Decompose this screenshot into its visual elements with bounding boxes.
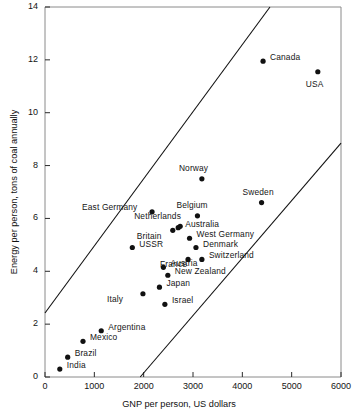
y-axis-tick-label: 0 (0, 371, 38, 381)
data-point[interactable] (260, 59, 265, 64)
data-point[interactable] (80, 339, 85, 344)
data-point-label: Japan (166, 279, 190, 288)
data-point-label: Switzerland (209, 251, 254, 260)
data-point-label: Mexico (90, 333, 117, 342)
y-axis-tick-label: 6 (0, 212, 38, 222)
data-point-label: Canada (270, 53, 300, 62)
data-point-label: Australia (185, 220, 219, 229)
data-point-label: East Germany (82, 203, 137, 212)
data-point-label: Israel (172, 296, 193, 305)
data-point[interactable] (178, 224, 183, 229)
data-point-label: Argentina (108, 323, 145, 332)
data-point[interactable] (195, 213, 200, 218)
data-point-label: West Germany (197, 230, 255, 239)
upper-band-line (45, 7, 270, 313)
y-axis-tick-label: 2 (0, 318, 38, 328)
data-point-label: Norway (179, 164, 208, 173)
data-point-label: USA (306, 80, 324, 89)
data-point[interactable] (315, 69, 320, 74)
data-point-label: Belgium (176, 201, 207, 210)
y-axis-tick-label: 10 (0, 107, 38, 117)
y-axis-tick-label: 14 (0, 1, 38, 11)
x-axis-title: GNP per person, US dollars (0, 399, 358, 409)
data-point[interactable] (140, 291, 145, 296)
data-point[interactable] (165, 273, 170, 278)
data-point[interactable] (162, 302, 167, 307)
data-point-label: Sweden (243, 188, 274, 197)
data-point[interactable] (193, 245, 198, 250)
data-point[interactable] (259, 200, 264, 205)
y-axis-tick-label: 8 (0, 160, 38, 170)
data-point-label: Denmark (203, 240, 238, 249)
plot-frame (45, 7, 341, 377)
data-point-label: Brazil (75, 349, 97, 358)
data-point[interactable] (170, 228, 175, 233)
data-point[interactable] (130, 245, 135, 250)
data-point[interactable] (199, 257, 204, 262)
data-point-label: India (67, 361, 86, 370)
data-point[interactable] (187, 236, 192, 241)
scatter-chart-figure: GNP per person, US dollars Energy per pe… (0, 0, 358, 416)
data-point[interactable] (65, 355, 70, 360)
data-point-label: Netherlands (134, 212, 181, 221)
y-axis-tick-label: 4 (0, 265, 38, 275)
data-point-label: France (160, 260, 187, 269)
data-point[interactable] (57, 366, 62, 371)
data-point-label: Britain (137, 232, 162, 241)
data-point[interactable] (157, 285, 162, 290)
y-axis-tick-label: 12 (0, 54, 38, 64)
data-point[interactable] (199, 176, 204, 181)
x-axis-tick-label: 6000 (311, 381, 358, 391)
data-point-label: Italy (107, 295, 123, 304)
